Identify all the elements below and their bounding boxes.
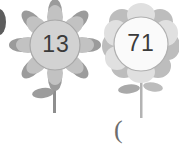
flower-illustration-canvas: [0, 0, 179, 148]
flower-left-number: 13: [38, 30, 74, 58]
flower-right-number: 71: [123, 29, 159, 57]
open-paren-mark: (: [114, 117, 123, 143]
